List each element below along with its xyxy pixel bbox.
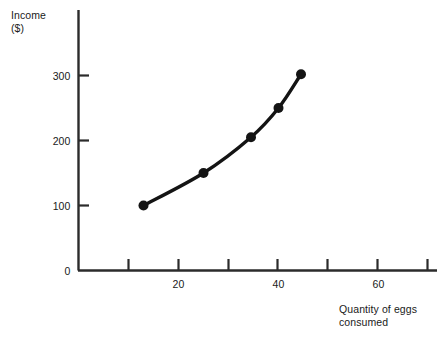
x-axis-ticks (129, 259, 428, 270)
x-axis-title: Quantity of eggs consumed (339, 303, 417, 329)
data-point-marker (246, 132, 256, 142)
income-curve-line (144, 74, 302, 205)
x-tick-label: 40 (273, 278, 285, 290)
y-axis-title: Income ($) (11, 9, 46, 35)
x-tick-label: 20 (173, 278, 185, 290)
data-point-marker (199, 168, 209, 178)
engel-curve-chart: Income ($) Quantity of eggs consumed 010… (0, 0, 443, 338)
y-tick-label: 100 (53, 200, 71, 212)
y-tick-label: 300 (53, 70, 71, 82)
y-tick-label: 0 (65, 265, 71, 277)
income-curve-markers (139, 69, 307, 210)
x-tick-label: 60 (373, 278, 385, 290)
data-point-marker (139, 201, 149, 211)
data-point-marker (274, 103, 284, 113)
data-point-marker (296, 69, 306, 79)
y-tick-label: 200 (53, 135, 71, 147)
